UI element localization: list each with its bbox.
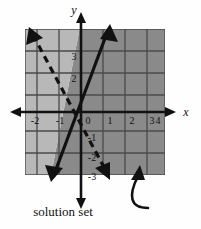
coordinate-plane-svg: solid boundary line -2 -1 0 1 2 3 4 4 3 …: [0, 0, 201, 229]
y-tick-minus1: -1: [88, 132, 96, 143]
y-tick-three: 3: [72, 51, 77, 62]
x-tick-zero: 0: [86, 115, 91, 126]
y-tick-minus2: -2: [88, 152, 96, 163]
graph-figure: solid boundary line -2 -1 0 1 2 3 4 4 3 …: [0, 0, 201, 229]
x-axis-label: x: [182, 105, 189, 119]
x-tick-minus2: -2: [31, 115, 39, 126]
x-tick-three: 3: [150, 115, 155, 126]
solution-set-caption: solution set: [33, 204, 93, 219]
y-tick-two: 2: [72, 73, 77, 84]
x-tick-minus1: -1: [56, 115, 64, 126]
x-tick-four-visible: 4: [156, 115, 161, 126]
y-axis-label: y: [70, 3, 77, 17]
y-tick-minus3: -3: [88, 171, 96, 182]
x-tick-one: 1: [108, 115, 113, 126]
x-tick-two: 2: [130, 115, 135, 126]
